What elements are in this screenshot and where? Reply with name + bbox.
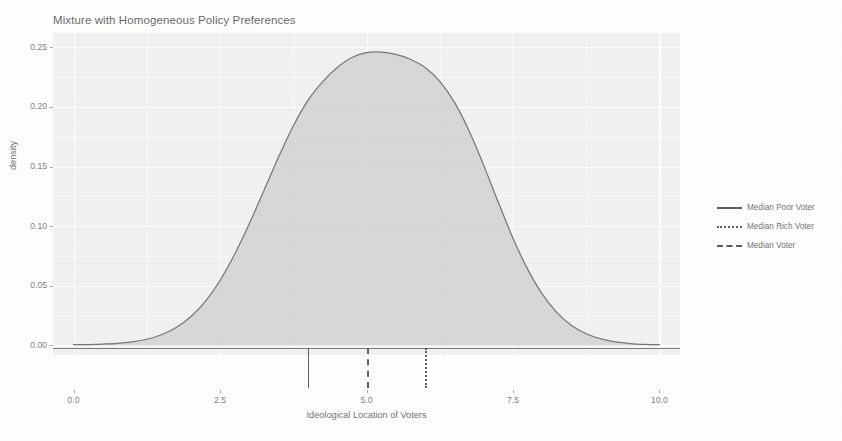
density-plot-figure: Mixture with Homogeneous Policy Preferen… [0, 0, 842, 441]
legend-key-line [717, 226, 742, 228]
y-tick-mark [50, 286, 53, 287]
median-markers [53, 348, 680, 394]
y-tick-mark [50, 345, 53, 346]
y-tick-label: 0.05 [30, 280, 47, 290]
legend-key-solid [716, 201, 743, 215]
legend-key-line [717, 245, 742, 247]
legend-item: Median Poor Voter [716, 198, 838, 217]
x-tick-label: 7.5 [488, 395, 538, 405]
legend-key-dotted [716, 220, 743, 234]
legend-label: Median Rich Voter [747, 222, 814, 231]
y-tick-label: 0.10 [30, 221, 47, 231]
legend-label: Median Poor Voter [747, 203, 815, 212]
y-tick-label: 0.00 [30, 340, 47, 350]
legend-label: Median Voter [747, 241, 795, 250]
x-axis-title: Ideological Location of Voters [53, 410, 680, 420]
median-marker-line [367, 348, 369, 388]
y-tick-label: 0.25 [30, 42, 47, 52]
y-tick-label: 0.20 [30, 101, 47, 111]
y-tick-mark [50, 107, 53, 108]
median-marker-line [308, 348, 309, 388]
density-area-curve [53, 33, 680, 355]
legend-key-dashed [716, 239, 743, 253]
legend-item: Median Rich Voter [716, 217, 838, 236]
legend-item: Median Voter [716, 236, 838, 255]
x-tick-label: 0.0 [49, 395, 99, 405]
page-title: Mixture with Homogeneous Policy Preferen… [53, 14, 296, 26]
legend: Median Poor VoterMedian Rich VoterMedian… [716, 198, 838, 255]
y-tick-mark [50, 47, 53, 48]
plot-panel [53, 33, 680, 355]
y-tick-mark [50, 226, 53, 227]
y-tick-label: 0.15 [30, 161, 47, 171]
y-axis-title: density [8, 141, 18, 170]
x-tick-label: 5.0 [342, 395, 392, 405]
y-tick-mark [50, 167, 53, 168]
median-marker-line [425, 348, 427, 388]
x-tick-label: 2.5 [195, 395, 245, 405]
x-tick-label: 10.0 [634, 395, 684, 405]
legend-key-line [717, 207, 742, 209]
